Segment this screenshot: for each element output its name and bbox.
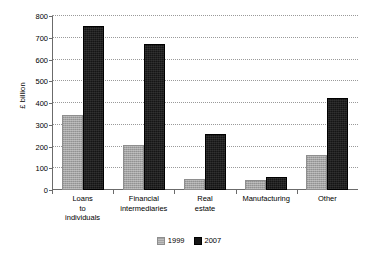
y-axis-tick-label: 500	[35, 77, 48, 86]
plot-area: 0100200300400500600700800	[52, 16, 358, 190]
x-axis-category-label: Loans to individuals	[52, 194, 113, 223]
x-axis-category-label: Real estate	[174, 194, 235, 223]
y-axis-title: £ billion	[15, 0, 29, 190]
bar-chart: £ billion 0100200300400500600700800 Loan…	[0, 0, 378, 260]
bar-group	[297, 16, 358, 190]
bar-1999[interactable]	[123, 145, 144, 190]
bar-group	[236, 16, 297, 190]
y-axis-tick-label: 100	[35, 164, 48, 173]
plot-inner: 0100200300400500600700800	[52, 16, 358, 190]
bar-1999[interactable]	[245, 180, 266, 190]
bar-groups	[52, 16, 358, 190]
legend-label: 1999	[168, 236, 185, 245]
legend-item-1999[interactable]: 1999	[157, 236, 185, 245]
bar-group	[113, 16, 174, 190]
legend-swatch-2007-icon	[194, 237, 202, 245]
bar-2007[interactable]	[266, 177, 287, 190]
bar-2007[interactable]	[83, 26, 104, 190]
y-axis-tick-label: 200	[35, 142, 48, 151]
y-axis-line	[52, 16, 53, 190]
bar-2007[interactable]	[205, 134, 226, 190]
legend-label: 2007	[205, 236, 222, 245]
bar-1999[interactable]	[184, 179, 205, 190]
y-axis-tick-label: 600	[35, 55, 48, 64]
chart-legend: 19992007	[0, 236, 378, 245]
x-axis-category-labels: Loans to individualsFinancial intermedia…	[52, 194, 358, 223]
bar-group	[52, 16, 113, 190]
x-axis-category-label: Manufacturing	[236, 194, 297, 223]
x-axis-category-label: Financial intermediaries	[113, 194, 174, 223]
bar-1999[interactable]	[306, 155, 327, 190]
x-axis-category-label: Other	[297, 194, 358, 223]
y-axis-tick-label: 0	[44, 186, 48, 195]
bar-1999[interactable]	[62, 115, 83, 190]
y-axis-tick-label: 800	[35, 12, 48, 21]
legend-swatch-1999-icon	[157, 237, 165, 245]
bar-2007[interactable]	[327, 98, 348, 190]
y-axis-tick-label: 700	[35, 33, 48, 42]
y-axis-title-label: £ billion	[18, 82, 27, 108]
bar-2007[interactable]	[144, 44, 165, 190]
y-axis-tick-label: 300	[35, 120, 48, 129]
y-axis-tick-label: 400	[35, 99, 48, 108]
legend-item-2007[interactable]: 2007	[194, 236, 222, 245]
bar-group	[174, 16, 235, 190]
